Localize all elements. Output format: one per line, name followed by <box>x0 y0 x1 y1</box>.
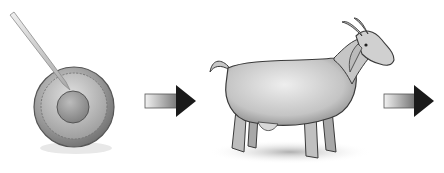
nucleus <box>57 91 89 123</box>
arrow-2-icon <box>384 85 434 117</box>
goat-illustration <box>208 18 394 164</box>
egg-cell-illustration <box>10 12 114 154</box>
process-diagram <box>0 0 444 173</box>
goat-eye <box>364 43 367 46</box>
micropipette <box>10 12 70 90</box>
arrow-1-icon <box>145 85 196 117</box>
